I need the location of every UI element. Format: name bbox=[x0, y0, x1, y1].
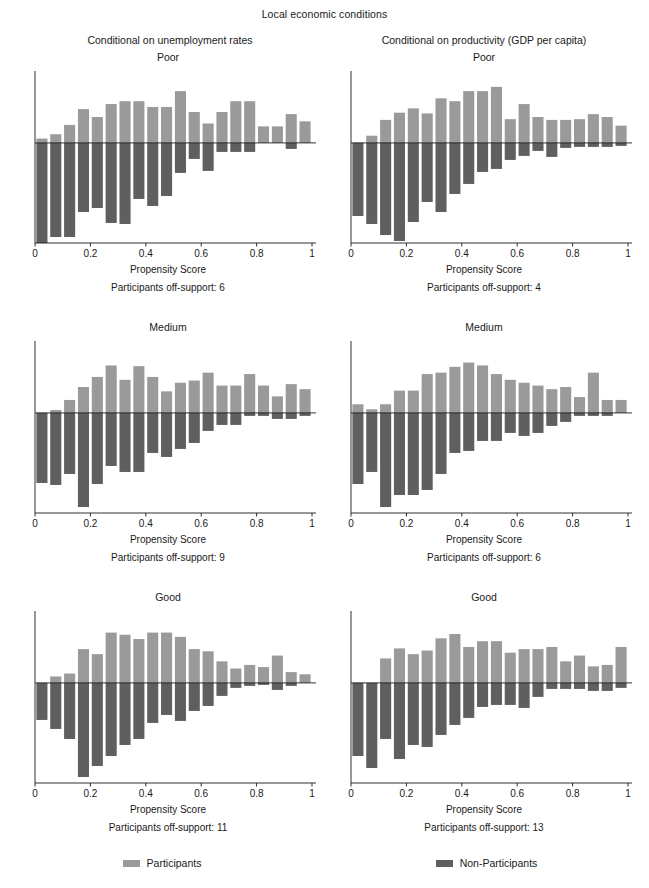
bar bbox=[366, 413, 377, 472]
bar bbox=[422, 683, 433, 747]
bar bbox=[258, 413, 269, 416]
x-tick-label: 0.4 bbox=[455, 248, 469, 259]
x-tick-label: 1 bbox=[625, 248, 631, 259]
x-tick-label: 0.2 bbox=[83, 518, 97, 529]
x-tick-label: 0 bbox=[32, 788, 38, 799]
bar bbox=[64, 400, 75, 413]
bar bbox=[244, 143, 255, 152]
bar bbox=[602, 413, 613, 416]
bar bbox=[366, 409, 377, 413]
column-title-productivity: Conditional on productivity (GDP per cap… bbox=[322, 34, 646, 46]
off-support-caption: Participants off-support: 6 bbox=[6, 282, 330, 293]
bar bbox=[133, 683, 144, 739]
bar bbox=[560, 143, 571, 148]
bar bbox=[92, 654, 103, 683]
series-participants bbox=[366, 87, 626, 143]
bar bbox=[574, 143, 585, 147]
series-non-participants bbox=[36, 413, 310, 507]
bar bbox=[216, 413, 227, 425]
bar bbox=[435, 683, 446, 735]
column-title-unemployment: Conditional on unemployment rates bbox=[8, 34, 332, 46]
figure-legend: Participants Non-Participants bbox=[0, 857, 649, 869]
bar bbox=[422, 113, 433, 142]
bar bbox=[532, 413, 543, 433]
figure-supertitle: Local economic conditions bbox=[0, 8, 649, 20]
bar bbox=[216, 661, 227, 683]
bar bbox=[463, 363, 474, 413]
bar bbox=[519, 683, 530, 708]
bar bbox=[64, 413, 75, 474]
x-tick-label: 0.8 bbox=[566, 518, 580, 529]
bar bbox=[449, 413, 460, 453]
bar bbox=[616, 143, 627, 146]
bar bbox=[560, 683, 571, 689]
bar bbox=[203, 123, 214, 142]
bar bbox=[203, 413, 214, 431]
off-support-caption: Participants off-support: 9 bbox=[6, 552, 330, 563]
panel-title: Medium bbox=[6, 320, 330, 335]
x-tick-label: 0.4 bbox=[139, 788, 153, 799]
bar bbox=[602, 683, 613, 691]
bar bbox=[394, 113, 405, 143]
bar bbox=[106, 104, 117, 143]
bar bbox=[546, 647, 557, 683]
bar bbox=[147, 413, 158, 453]
bar bbox=[422, 374, 433, 413]
bar bbox=[616, 647, 627, 683]
bar bbox=[435, 373, 446, 413]
bar bbox=[422, 413, 433, 490]
plot-area: 00.20.40.60.81 bbox=[18, 335, 318, 535]
legend-label-participants: Participants bbox=[147, 857, 202, 869]
panel-title: Medium bbox=[322, 320, 646, 335]
bar bbox=[189, 112, 200, 143]
x-tick-label: 0 bbox=[348, 788, 354, 799]
bar bbox=[161, 413, 172, 457]
series-non-participants bbox=[352, 683, 626, 768]
legend-item-non-participants: Non-Participants bbox=[324, 857, 649, 869]
x-tick-label: 0 bbox=[32, 248, 38, 259]
bar bbox=[119, 413, 130, 472]
bar bbox=[408, 413, 419, 495]
bar bbox=[244, 101, 255, 143]
bar bbox=[119, 635, 130, 683]
bar bbox=[133, 413, 144, 472]
bar bbox=[286, 683, 297, 686]
bar bbox=[36, 139, 47, 143]
bar bbox=[380, 413, 391, 507]
x-tick-label: 1 bbox=[309, 518, 315, 529]
bar bbox=[616, 400, 627, 413]
panel-productivity-medium: Medium00.20.40.60.81Propensity ScorePart… bbox=[322, 320, 646, 563]
bar bbox=[532, 143, 543, 151]
bar bbox=[161, 107, 172, 143]
bar bbox=[78, 143, 89, 212]
bar bbox=[203, 683, 214, 706]
x-axis-label: Propensity Score bbox=[322, 804, 646, 815]
bar bbox=[230, 101, 241, 143]
x-tick-label: 0.6 bbox=[194, 788, 208, 799]
bar bbox=[408, 391, 419, 413]
bar bbox=[147, 683, 158, 723]
bar bbox=[477, 413, 488, 441]
bar bbox=[463, 91, 474, 143]
bar bbox=[161, 683, 172, 715]
bar bbox=[477, 91, 488, 143]
x-axis-label: Propensity Score bbox=[6, 804, 330, 815]
x-tick-label: 0.4 bbox=[139, 248, 153, 259]
x-tick-label: 0.2 bbox=[83, 248, 97, 259]
bar bbox=[463, 143, 474, 184]
bar bbox=[505, 413, 516, 433]
bar bbox=[175, 143, 186, 173]
panel-productivity-good: Good00.20.40.60.81Propensity ScorePartic… bbox=[322, 590, 646, 833]
bar bbox=[546, 413, 557, 426]
bar bbox=[602, 117, 613, 143]
bar bbox=[602, 400, 613, 413]
plot-area: 00.20.40.60.81 bbox=[18, 605, 318, 805]
plot-area: 00.20.40.60.81 bbox=[334, 335, 634, 535]
bar bbox=[50, 676, 61, 682]
bar bbox=[216, 112, 227, 143]
bar bbox=[546, 143, 557, 157]
bar bbox=[50, 413, 61, 485]
bar bbox=[50, 134, 61, 143]
bar bbox=[394, 683, 405, 759]
bar bbox=[352, 404, 363, 413]
